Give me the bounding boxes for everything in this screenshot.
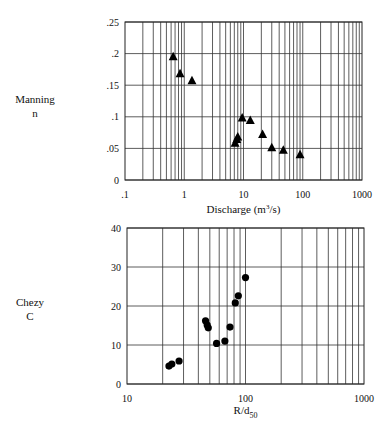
- grid-lines: [127, 228, 364, 384]
- data-points: [165, 274, 249, 370]
- y-tick-label: 0: [116, 379, 121, 390]
- circle-marker: [205, 324, 212, 331]
- x-tick-label: 10: [239, 189, 249, 200]
- circle-marker: [232, 299, 239, 306]
- y-tick-label: .05: [107, 143, 120, 154]
- x-tick-label: 1: [182, 189, 187, 200]
- y-tick-label: 0: [114, 175, 119, 186]
- triangle-marker: [176, 69, 185, 78]
- x-tick-label: .1: [121, 189, 129, 200]
- x-tick-label: 100: [238, 393, 253, 404]
- y-tick-label: 20: [111, 301, 121, 312]
- chart-figure: 0.05.1.15.2.25.11101001000ManningnDischa…: [0, 0, 392, 427]
- grid-lines: [125, 22, 362, 180]
- triangle-marker: [267, 143, 276, 152]
- y-axis-label: Manningn: [15, 93, 55, 119]
- chezy-c-vs-relative-roughness-chart: 010203040101001000ChezyCR/d50: [16, 223, 374, 421]
- y-tick-label: 40: [111, 223, 121, 234]
- y-tick-label: 10: [111, 340, 121, 351]
- x-axis-label: R/d50: [234, 404, 258, 420]
- triangle-marker: [169, 52, 178, 61]
- y-tick-label: .1: [112, 111, 120, 122]
- triangle-marker: [238, 113, 247, 122]
- x-tick-label: 100: [295, 189, 310, 200]
- triangle-marker: [258, 129, 267, 138]
- circle-marker: [168, 361, 175, 368]
- y-tick-label: .25: [107, 17, 120, 28]
- x-tick-label: 1000: [354, 393, 374, 404]
- circle-marker: [175, 357, 182, 364]
- circle-marker: [213, 340, 220, 347]
- circle-marker: [226, 323, 233, 330]
- y-axis-label: ChezyC: [16, 296, 45, 322]
- y-tick-label: .15: [107, 80, 120, 91]
- y-tick-label: 30: [111, 262, 121, 273]
- x-tick-label: 1000: [352, 189, 372, 200]
- triangle-marker: [187, 76, 196, 85]
- data-points: [169, 52, 305, 158]
- triangle-marker: [279, 145, 288, 154]
- circle-marker: [221, 338, 228, 345]
- x-axis-label: Discharge (m3/s): [207, 203, 281, 216]
- x-tick-label: 10: [122, 393, 132, 404]
- y-tick-label: .2: [112, 48, 120, 59]
- manning-n-vs-discharge-chart: 0.05.1.15.2.25.11101001000ManningnDischa…: [15, 17, 372, 217]
- circle-marker: [235, 292, 242, 299]
- circle-marker: [242, 274, 249, 281]
